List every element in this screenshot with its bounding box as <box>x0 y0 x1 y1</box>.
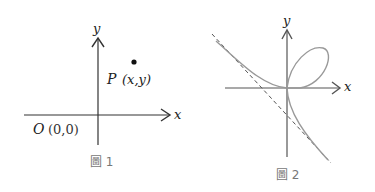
figure-2-caption: 圖 2 <box>276 168 299 182</box>
point-p-coords: (x,y) <box>122 72 151 87</box>
curve-left-branch <box>216 41 287 88</box>
figure-2: y x 圖 2 <box>212 13 352 182</box>
point-p-name: P <box>106 71 117 87</box>
curve-loop <box>287 48 328 88</box>
origin-coords: (0,0) <box>48 122 79 137</box>
figure-1: y x P (x,y) O (0,0) 圖 1 <box>24 21 182 169</box>
origin-name: O <box>33 121 45 137</box>
fig1-x-label: x <box>174 107 182 122</box>
figure-1-caption: 圖 1 <box>90 155 113 169</box>
fig2-x-label: x <box>344 79 352 94</box>
point-p <box>131 59 136 64</box>
fig2-y-label: y <box>282 13 291 28</box>
fig1-y-label: y <box>92 21 101 36</box>
curve-lower-branch <box>287 88 328 160</box>
diagram-canvas: y x P (x,y) O (0,0) 圖 1 y x 圖 2 <box>0 0 375 192</box>
